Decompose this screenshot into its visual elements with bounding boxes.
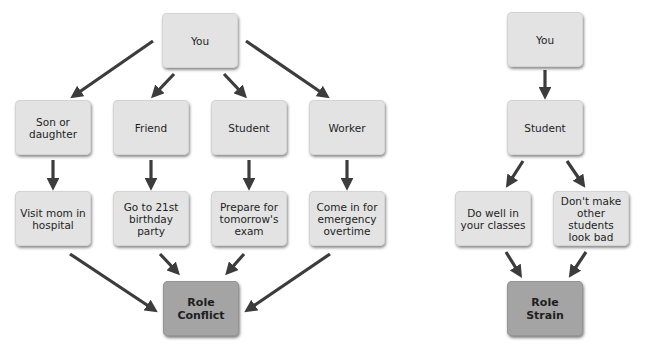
node-label: Prepare for tomorrow's exam <box>215 201 283 237</box>
node-you-left: You <box>162 13 238 68</box>
node-demand-visit-mom: Visit mom in hospital <box>15 191 91 246</box>
node-label: Go to 21st birthday party <box>117 201 185 237</box>
node-label: Visit mom in hospital <box>19 207 87 231</box>
node-label: Student <box>228 122 269 134</box>
node-label: Son or daughter <box>19 116 87 140</box>
arrow-student-to-dontmake <box>567 161 582 183</box>
node-label: Friend <box>135 122 167 134</box>
node-demand-do-well: Do well in your classes <box>455 191 531 246</box>
arrow-you-to-student <box>224 74 243 94</box>
node-label: Worker <box>329 122 366 134</box>
arrow-visit-to-conflict <box>70 254 153 309</box>
node-demand-dont-make-look-bad: Don't make other students look bad <box>553 191 629 246</box>
node-role-son-or-daughter: Son or daughter <box>15 100 91 155</box>
node-role-student-right: Student <box>507 100 583 155</box>
node-label: Come in for emergency overtime <box>313 201 381 237</box>
arrow-party-to-conflict <box>160 254 176 271</box>
node-role-friend: Friend <box>113 100 189 155</box>
node-role-worker: Worker <box>309 100 385 155</box>
node-label: Role Conflict <box>167 296 235 322</box>
node-label: Role Strain <box>525 296 565 322</box>
arrow-dontmake-to-strain <box>572 252 586 273</box>
node-label: Don't make other students look bad <box>557 195 625 243</box>
arrow-student-to-dowell <box>509 161 523 183</box>
node-demand-prepare-exam: Prepare for tomorrow's exam <box>211 191 287 246</box>
node-role-conflict: Role Conflict <box>163 281 239 336</box>
arrow-exam-to-conflict <box>229 254 244 271</box>
arrow-overtime-to-conflict <box>249 254 330 309</box>
node-role-strain: Role Strain <box>507 281 583 336</box>
node-label: You <box>536 34 554 46</box>
arrow-you-to-friend <box>155 74 174 94</box>
node-demand-birthday-party: Go to 21st birthday party <box>113 191 189 246</box>
node-label: You <box>191 35 209 47</box>
node-label: Student <box>524 122 565 134</box>
arrow-you-to-worker <box>246 41 325 95</box>
node-role-student: Student <box>211 100 287 155</box>
node-demand-emergency-overtime: Come in for emergency overtime <box>309 191 385 246</box>
node-label: Do well in your classes <box>459 207 527 231</box>
arrow-you-to-son <box>75 41 153 95</box>
node-you-right: You <box>507 12 583 67</box>
arrow-dowell-to-strain <box>506 252 519 273</box>
